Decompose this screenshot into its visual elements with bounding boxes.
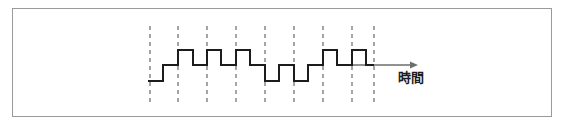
waveform-diagram: 時間 bbox=[0, 0, 564, 126]
time-axis-label: 時間 bbox=[398, 70, 424, 85]
signal-waveform-group bbox=[148, 50, 374, 81]
figure-root: 時間 bbox=[0, 0, 564, 126]
signal-waveform-path bbox=[148, 50, 374, 81]
time-axis-arrowhead bbox=[410, 61, 418, 68]
time-axis-group bbox=[352, 61, 418, 68]
